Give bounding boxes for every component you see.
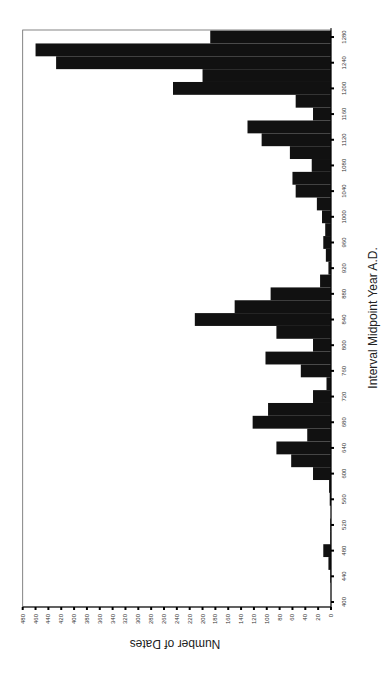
value-tick [240, 607, 242, 610]
year-tick-label: 1200 [341, 81, 347, 95]
bar-480 [323, 544, 331, 557]
bar-1260 [36, 43, 331, 56]
histogram-chart: 4004404805205606006406807207608008408809… [0, 0, 385, 675]
bar-1180 [296, 95, 331, 108]
value-tick-label: 0 [328, 613, 334, 617]
bar-880 [271, 287, 331, 300]
year-tick-label: 440 [341, 571, 347, 582]
year-tick [331, 267, 334, 269]
bar-840 [195, 313, 331, 326]
bar-780 [265, 352, 331, 365]
bar-1240 [56, 56, 331, 69]
year-tick-label: 640 [341, 442, 347, 453]
bar-740 [327, 377, 332, 390]
bar-900 [320, 275, 331, 288]
value-tick-label: 320 [122, 613, 128, 624]
bar-1020 [317, 198, 331, 211]
bar-1220 [203, 69, 331, 82]
bar-860 [235, 300, 331, 313]
value-tick-label: 380 [84, 613, 90, 624]
year-tick [331, 113, 334, 115]
year-tick [331, 447, 334, 449]
bar-1040 [296, 185, 331, 198]
value-tick-label: 200 [200, 613, 206, 624]
value-tick [150, 607, 152, 610]
year-tick-label: 1120 [341, 133, 347, 147]
value-tick [189, 607, 191, 610]
value-tick [304, 607, 306, 610]
year-tick [331, 164, 334, 166]
bar-1200 [173, 82, 331, 95]
year-tick-label: 400 [341, 596, 347, 607]
bar-680 [253, 416, 331, 429]
year-tick [331, 87, 334, 89]
value-tick-label: 60 [289, 613, 295, 620]
x-axis-title: Interval Midpoint Year A.D. [366, 247, 380, 388]
value-tick-label: 160 [225, 613, 231, 624]
year-tick-label: 480 [341, 545, 347, 556]
bar-760 [301, 364, 331, 377]
value-tick-label: 400 [71, 613, 77, 624]
year-tick-label: 560 [341, 494, 347, 505]
year-tick [331, 319, 334, 321]
value-tick-label: 440 [45, 613, 51, 624]
bar-1280 [210, 31, 331, 44]
value-tick [214, 607, 216, 610]
bar-1000 [322, 210, 331, 223]
value-tick [291, 607, 293, 610]
year-tick [331, 36, 334, 38]
bar-600 [313, 467, 331, 480]
bar-940 [326, 249, 331, 262]
year-tick-label: 600 [341, 468, 347, 479]
bar-1120 [262, 133, 331, 146]
value-tick [227, 607, 229, 610]
bar-1140 [248, 121, 332, 134]
value-tick [60, 607, 62, 610]
value-tick [35, 607, 37, 610]
year-tick [331, 190, 334, 192]
value-tick-label: 80 [277, 613, 283, 620]
value-tick [279, 607, 281, 610]
value-tick [317, 607, 319, 610]
bar-960 [323, 236, 331, 249]
value-tick-label: 460 [33, 613, 39, 624]
year-axis-ticks: 4004404805205606006406807207608008408809… [331, 30, 347, 607]
value-tick [253, 607, 255, 610]
value-tick [163, 607, 165, 610]
plot-area: 4004404805205606006406807207608008408809… [20, 28, 347, 624]
bar-800 [313, 339, 331, 352]
year-tick-label: 720 [341, 391, 347, 402]
year-tick-label: 880 [341, 288, 347, 299]
value-tick-label: 420 [58, 613, 64, 624]
value-tick-label: 180 [212, 613, 218, 624]
year-tick-label: 960 [341, 237, 347, 248]
year-tick [331, 524, 334, 526]
year-tick-label: 1040 [341, 184, 347, 198]
year-tick-label: 920 [341, 262, 347, 273]
year-tick [331, 62, 334, 64]
year-tick-label: 760 [341, 365, 347, 376]
year-tick [331, 601, 334, 603]
year-tick [331, 473, 334, 475]
value-tick-label: 280 [148, 613, 154, 624]
year-tick [331, 139, 334, 141]
value-tick-label: 40 [302, 613, 308, 620]
year-tick [331, 575, 334, 577]
year-tick-label: 1160 [341, 107, 347, 121]
value-tick-label: 300 [135, 613, 141, 624]
value-tick-label: 340 [110, 613, 116, 624]
value-tick-label: 260 [161, 613, 167, 624]
year-tick [331, 550, 334, 552]
year-tick [331, 216, 334, 218]
year-tick [331, 370, 334, 372]
bar-1100 [290, 146, 331, 159]
year-tick-label: 1080 [341, 158, 347, 172]
year-tick-label: 1280 [341, 30, 347, 44]
value-tick [99, 607, 101, 610]
value-tick [330, 607, 332, 610]
bar-660 [307, 429, 331, 442]
year-tick-label: 1240 [341, 55, 347, 69]
year-tick-label: 840 [341, 314, 347, 325]
bar-980 [325, 223, 331, 236]
value-tick-label: 100 [264, 613, 270, 624]
